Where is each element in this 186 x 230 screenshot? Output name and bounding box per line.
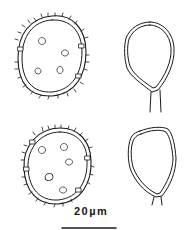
spore-top-left [15,13,89,99]
figure-drawing [0,0,186,230]
scale-bar-label: 20µm [74,205,108,217]
cell-top-right [125,22,174,112]
spore-bottom-left [21,125,94,207]
cell-bottom-right [128,127,176,205]
